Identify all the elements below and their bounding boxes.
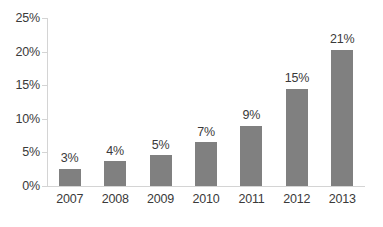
x-axis-tick-label: 2010 bbox=[192, 193, 219, 206]
plot-area: 3%4%5%7%9%15%21% bbox=[47, 14, 365, 186]
bar[interactable] bbox=[195, 142, 217, 186]
bar-group: 4% bbox=[92, 14, 137, 186]
bar-value-label: 4% bbox=[106, 145, 124, 158]
y-axis-tick-label: 15% bbox=[2, 79, 40, 92]
bar-group: 3% bbox=[47, 14, 92, 186]
y-axis-tick-label: 5% bbox=[2, 146, 40, 159]
y-axis-tick-label: 10% bbox=[2, 113, 40, 126]
bar[interactable] bbox=[104, 161, 126, 186]
bar-value-label: 9% bbox=[243, 109, 261, 122]
x-axis-tick-label: 2012 bbox=[283, 193, 310, 206]
y-axis-tick-label: 25% bbox=[2, 12, 40, 25]
bar[interactable] bbox=[331, 50, 353, 186]
bar[interactable] bbox=[286, 89, 308, 186]
y-axis-tick bbox=[42, 52, 47, 53]
x-axis-tick-label: 2008 bbox=[102, 193, 129, 206]
y-axis-tick bbox=[42, 119, 47, 120]
y-axis-tick bbox=[42, 186, 47, 187]
x-axis-tick-label: 2011 bbox=[238, 193, 264, 206]
y-axis-tick-label: 0% bbox=[2, 180, 40, 193]
bar[interactable] bbox=[59, 169, 81, 186]
bar[interactable] bbox=[150, 155, 172, 186]
y-axis-tick-label: 20% bbox=[2, 46, 40, 59]
bar-value-label: 21% bbox=[330, 33, 354, 46]
bar-group: 5% bbox=[138, 14, 183, 186]
y-axis-tick bbox=[42, 18, 47, 19]
y-axis-tick bbox=[42, 152, 47, 153]
y-axis-labels: 0%5%10%15%20%25% bbox=[0, 0, 40, 227]
bar-value-label: 5% bbox=[152, 139, 170, 152]
bar-group: 21% bbox=[320, 14, 365, 186]
y-axis-tick bbox=[42, 85, 47, 86]
bar-group: 15% bbox=[274, 14, 319, 186]
x-axis-tick-label: 2009 bbox=[147, 193, 174, 206]
x-axis-tick-label: 2007 bbox=[56, 193, 83, 206]
bar-value-label: 3% bbox=[61, 152, 79, 165]
x-axis-tick-label: 2013 bbox=[329, 193, 356, 206]
bar[interactable] bbox=[240, 126, 262, 186]
bar-value-label: 15% bbox=[285, 72, 309, 85]
x-axis-line bbox=[47, 186, 365, 187]
bar-group: 7% bbox=[183, 14, 228, 186]
bar-value-label: 7% bbox=[197, 126, 215, 139]
bar-group: 9% bbox=[229, 14, 274, 186]
bar-chart: 0%5%10%15%20%25% 3%4%5%7%9%15%21% 200720… bbox=[0, 0, 383, 227]
x-axis-labels: 2007200820092010201120122013 bbox=[47, 193, 365, 215]
